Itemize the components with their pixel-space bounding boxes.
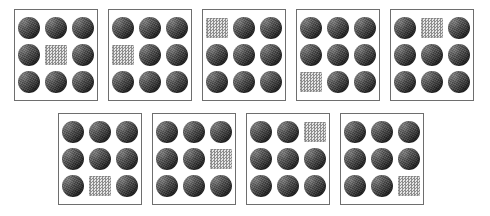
filled-circle-icon	[260, 17, 282, 39]
filled-circle-icon	[233, 71, 255, 93]
filled-circle-icon	[250, 148, 272, 170]
cell-grid	[156, 121, 232, 197]
filled-circle-icon	[139, 71, 161, 93]
filled-circle-icon	[327, 71, 349, 93]
panel-9[interactable]	[340, 113, 424, 205]
panel-4[interactable]	[296, 9, 380, 101]
filled-circle-icon	[304, 148, 326, 170]
panel-3[interactable]	[202, 9, 286, 101]
filled-circle-icon	[260, 71, 282, 93]
filled-circle-icon	[448, 17, 470, 39]
filled-circle-icon	[156, 121, 178, 143]
panel-1[interactable]	[14, 9, 98, 101]
filled-circle-icon	[277, 121, 299, 143]
filled-circle-icon	[72, 17, 94, 39]
panel-5[interactable]	[390, 9, 474, 101]
filled-circle-icon	[394, 17, 416, 39]
filled-circle-icon	[344, 148, 366, 170]
filled-circle-icon	[156, 175, 178, 197]
filled-circle-icon	[72, 71, 94, 93]
filled-circle-icon	[304, 175, 326, 197]
panel-2[interactable]	[108, 9, 192, 101]
panel-7[interactable]	[152, 113, 236, 205]
filled-circle-icon	[300, 17, 322, 39]
filled-circle-icon	[62, 148, 84, 170]
filled-circle-icon	[344, 121, 366, 143]
filled-circle-icon	[371, 148, 393, 170]
filled-circle-icon	[250, 121, 272, 143]
filled-circle-icon	[206, 44, 228, 66]
checkered-square-icon	[421, 17, 443, 39]
cell-grid	[18, 17, 94, 93]
filled-circle-icon	[112, 17, 134, 39]
panel-8[interactable]	[246, 113, 330, 205]
filled-circle-icon	[72, 44, 94, 66]
filled-circle-icon	[260, 44, 282, 66]
filled-circle-icon	[233, 17, 255, 39]
filled-circle-icon	[116, 121, 138, 143]
filled-circle-icon	[210, 175, 232, 197]
filled-circle-icon	[18, 71, 40, 93]
filled-circle-icon	[156, 148, 178, 170]
filled-circle-icon	[45, 71, 67, 93]
cell-grid	[206, 17, 282, 93]
filled-circle-icon	[421, 71, 443, 93]
filled-circle-icon	[398, 148, 420, 170]
filled-circle-icon	[45, 17, 67, 39]
filled-circle-icon	[116, 148, 138, 170]
filled-circle-icon	[183, 175, 205, 197]
filled-circle-icon	[371, 121, 393, 143]
filled-circle-icon	[206, 71, 228, 93]
checkered-square-icon	[112, 44, 134, 66]
filled-circle-icon	[89, 121, 111, 143]
filled-circle-icon	[183, 121, 205, 143]
cell-grid	[250, 121, 326, 197]
filled-circle-icon	[327, 44, 349, 66]
filled-circle-icon	[89, 148, 111, 170]
filled-circle-icon	[166, 44, 188, 66]
checkered-square-icon	[398, 175, 420, 197]
filled-circle-icon	[116, 175, 138, 197]
checkered-square-icon	[89, 175, 111, 197]
filled-circle-icon	[394, 44, 416, 66]
filled-circle-icon	[250, 175, 272, 197]
filled-circle-icon	[233, 44, 255, 66]
filled-circle-icon	[354, 17, 376, 39]
checkered-square-icon	[300, 71, 322, 93]
cell-grid	[62, 121, 138, 197]
filled-circle-icon	[277, 175, 299, 197]
filled-circle-icon	[18, 44, 40, 66]
checkered-square-icon	[304, 121, 326, 143]
checkered-square-icon	[210, 148, 232, 170]
checkered-square-icon	[45, 44, 67, 66]
filled-circle-icon	[394, 71, 416, 93]
filled-circle-icon	[354, 71, 376, 93]
filled-circle-icon	[448, 44, 470, 66]
checkered-square-icon	[206, 17, 228, 39]
filled-circle-icon	[300, 44, 322, 66]
filled-circle-icon	[183, 148, 205, 170]
filled-circle-icon	[354, 44, 376, 66]
filled-circle-icon	[344, 175, 366, 197]
filled-circle-icon	[371, 175, 393, 197]
filled-circle-icon	[210, 121, 232, 143]
filled-circle-icon	[421, 44, 443, 66]
cell-grid	[112, 17, 188, 93]
filled-circle-icon	[327, 17, 349, 39]
filled-circle-icon	[62, 175, 84, 197]
filled-circle-icon	[166, 17, 188, 39]
filled-circle-icon	[139, 17, 161, 39]
filled-circle-icon	[112, 71, 134, 93]
panel-row-top	[14, 9, 474, 101]
cell-grid	[344, 121, 420, 197]
panel-6[interactable]	[58, 113, 142, 205]
filled-circle-icon	[18, 17, 40, 39]
filled-circle-icon	[277, 148, 299, 170]
cell-grid	[300, 17, 376, 93]
filled-circle-icon	[398, 121, 420, 143]
stimulus-board	[0, 0, 490, 216]
filled-circle-icon	[448, 71, 470, 93]
panel-row-bottom	[58, 113, 424, 205]
cell-grid	[394, 17, 470, 93]
filled-circle-icon	[62, 121, 84, 143]
